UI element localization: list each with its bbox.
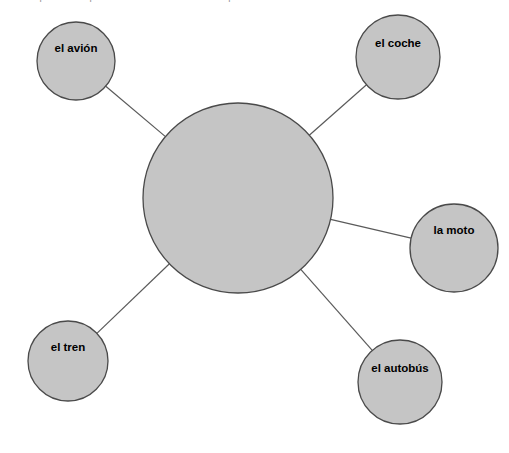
word-web-diagram: Completa el mapa con el vocabulario del … bbox=[0, 0, 509, 453]
connector-line-tren bbox=[97, 264, 170, 334]
center-bubble[interactable] bbox=[143, 103, 333, 293]
connector-line-coche bbox=[309, 85, 366, 135]
diagram-canvas bbox=[0, 0, 509, 453]
node-bubble-tren[interactable] bbox=[28, 321, 108, 401]
node-bubble-moto[interactable] bbox=[410, 204, 498, 292]
connector-line-moto bbox=[331, 219, 412, 238]
node-bubble-coche[interactable] bbox=[356, 15, 440, 99]
node-bubble-autobus[interactable] bbox=[358, 340, 442, 424]
bubble-layer bbox=[28, 15, 498, 424]
connector-line-avion bbox=[106, 86, 166, 136]
connector-line-autobus bbox=[301, 269, 372, 350]
node-bubble-avion[interactable] bbox=[37, 22, 115, 100]
